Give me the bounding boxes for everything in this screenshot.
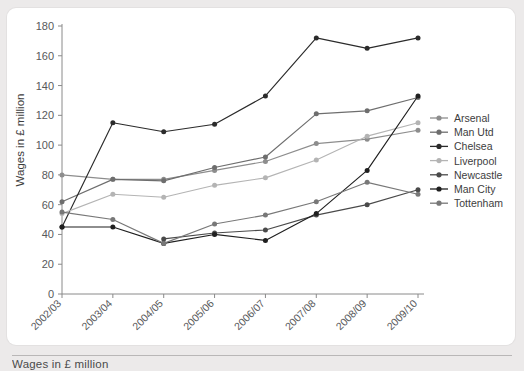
y-tick-label: 80 (42, 169, 54, 181)
data-point (263, 155, 268, 160)
series-man-utd (60, 95, 421, 204)
data-point (416, 128, 421, 133)
series-man-city (60, 93, 421, 245)
series-tottenham (60, 180, 421, 246)
legend-label: Tottenham (454, 197, 503, 209)
data-point (263, 227, 268, 232)
series-line (62, 123, 418, 214)
legend-swatch-marker (436, 172, 441, 177)
legend-label: Chelsea (454, 140, 493, 152)
data-point (60, 172, 65, 177)
x-tick-label: 2007/08 (282, 297, 317, 332)
data-point (365, 180, 370, 185)
y-tick-label: 160 (36, 50, 54, 62)
data-point (263, 238, 268, 243)
y-tick-label: 40 (42, 228, 54, 240)
series-line (62, 97, 418, 201)
x-tick-label: 2005/06 (181, 297, 216, 332)
data-point (110, 177, 115, 182)
legend-item-tottenham[interactable]: Tottenham (430, 197, 503, 209)
series-line (164, 190, 418, 239)
y-tick-label: 140 (36, 80, 54, 92)
data-point (161, 129, 166, 134)
data-point (60, 199, 65, 204)
legend-swatch-marker (436, 144, 441, 149)
data-point (416, 192, 421, 197)
line-chart: 0204060801001201401601802002/032003/0420… (0, 0, 524, 371)
data-point (314, 111, 319, 116)
data-point (365, 202, 370, 207)
legend-item-chelsea[interactable]: Chelsea (430, 140, 493, 152)
data-point (212, 165, 217, 170)
data-point (212, 232, 217, 237)
legend-item-newcastle[interactable]: Newcastle (430, 169, 503, 181)
data-point (365, 134, 370, 139)
legend-swatch-marker (436, 186, 441, 191)
data-point (365, 168, 370, 173)
data-point (416, 120, 421, 125)
legend-label: Man Utd (454, 126, 494, 138)
x-tick-label: 2009/10 (384, 297, 419, 332)
legend-item-liverpool[interactable]: Liverpool (430, 155, 497, 167)
legend-swatch-marker (436, 115, 441, 120)
legend-item-man-city[interactable]: Man City (430, 183, 496, 195)
series-line (62, 182, 418, 243)
chart-screenshot: 0204060801001201401601802002/032003/0420… (0, 0, 524, 371)
data-point (314, 211, 319, 216)
data-point (212, 222, 217, 227)
legend-item-man-utd[interactable]: Man Utd (430, 126, 494, 138)
data-point (161, 178, 166, 183)
x-tick-label: 2002/03 (28, 297, 63, 332)
series-newcastle (161, 187, 420, 241)
data-point (314, 35, 319, 40)
series-line (62, 38, 418, 227)
y-axis-title: Wages in £ million (14, 94, 26, 187)
data-point (60, 210, 65, 215)
data-point (110, 120, 115, 125)
data-point (263, 213, 268, 218)
legend-swatch-marker (436, 158, 441, 163)
x-tick-label: 2008/09 (333, 297, 368, 332)
data-point (365, 108, 370, 113)
data-point (161, 241, 166, 246)
data-point (161, 236, 166, 241)
data-point (263, 159, 268, 164)
x-tick-label: 2003/04 (79, 297, 114, 332)
data-point (416, 93, 421, 98)
series-chelsea (60, 35, 421, 229)
x-tick-label: 2004/05 (130, 297, 165, 332)
data-point (212, 122, 217, 127)
data-point (110, 217, 115, 222)
data-point (314, 141, 319, 146)
data-point (212, 183, 217, 188)
x-tick-label: 2006/07 (232, 297, 267, 332)
legend-swatch-marker (436, 201, 441, 206)
legend-item-arsenal[interactable]: Arsenal (430, 112, 490, 124)
legend-label: Man City (454, 183, 496, 195)
caption-divider (12, 355, 512, 356)
data-point (110, 192, 115, 197)
data-point (314, 158, 319, 163)
data-point (416, 35, 421, 40)
data-point (161, 195, 166, 200)
data-point (365, 46, 370, 51)
data-point (314, 199, 319, 204)
y-tick-label: 60 (42, 199, 54, 211)
data-point (60, 225, 65, 230)
data-point (263, 93, 268, 98)
y-tick-label: 100 (36, 139, 54, 151)
legend-label: Newcastle (454, 169, 503, 181)
legend-swatch-marker (436, 130, 441, 135)
data-point (416, 187, 421, 192)
y-tick-label: 20 (42, 258, 54, 270)
legend-label: Liverpool (454, 155, 497, 167)
data-point (263, 175, 268, 180)
figure-caption: Wages in £ million (12, 358, 512, 371)
data-point (110, 225, 115, 230)
legend-label: Arsenal (454, 112, 490, 124)
y-tick-label: 180 (36, 20, 54, 32)
y-tick-label: 120 (36, 109, 54, 121)
